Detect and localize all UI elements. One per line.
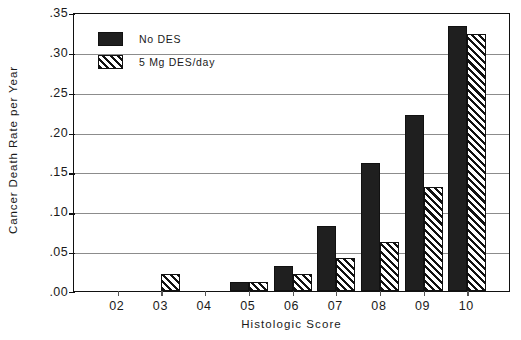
diagonal-hatch-swatch-icon xyxy=(98,55,123,69)
bar-group-08 xyxy=(359,163,401,291)
legend-label-no-des: No DES xyxy=(139,33,181,45)
bar-group-07 xyxy=(315,226,357,291)
y-tick-label: .00 xyxy=(24,285,68,299)
x-tick-label: 08 xyxy=(356,299,402,313)
y-tick-mark xyxy=(69,14,75,15)
y-axis-title-text: Cancer Death Rate per Year xyxy=(7,66,19,234)
bar-09-series-2 xyxy=(424,187,443,291)
x-tick-label: 09 xyxy=(400,299,446,313)
y-tick-mark xyxy=(69,213,75,214)
y-tick-mark xyxy=(69,253,75,254)
bar-07-series-2 xyxy=(336,258,355,291)
y-tick-mark xyxy=(69,173,75,174)
y-tick-label: .35 xyxy=(24,6,68,20)
y-tick-label: .20 xyxy=(24,126,68,140)
gridline xyxy=(74,94,509,95)
y-tick-mark xyxy=(69,94,75,95)
legend-label-des: 5 Mg DES/day xyxy=(139,56,215,68)
x-tick-mark xyxy=(249,291,250,296)
bar-06-series-2 xyxy=(293,274,312,291)
x-tick-label: 03 xyxy=(137,299,183,313)
bar-10-series-2 xyxy=(467,34,486,291)
x-tick-mark xyxy=(424,291,425,296)
y-tick-label: .05 xyxy=(24,245,68,259)
solid-black-swatch-icon xyxy=(98,32,123,46)
chart-legend: No DES 5 Mg DES/day xyxy=(98,29,258,75)
bar-group-05 xyxy=(228,282,270,291)
x-axis-title: Histologic Score xyxy=(73,318,510,330)
y-tick-mark xyxy=(69,54,75,55)
bar-05-series-2 xyxy=(249,282,268,291)
x-tick-mark xyxy=(380,291,381,296)
bar-group-09 xyxy=(403,115,445,291)
bar-03-series-2 xyxy=(161,274,180,291)
bar-08-series-1 xyxy=(361,163,380,291)
x-tick-label: 07 xyxy=(312,299,358,313)
y-axis-title: Cancer Death Rate per Year xyxy=(0,0,26,300)
x-tick-mark xyxy=(336,291,337,296)
bar-10-series-1 xyxy=(448,26,467,291)
y-axis-tick-labels: .00.05.10.15.20.25.30.35 xyxy=(24,0,68,340)
x-tick-mark xyxy=(205,291,206,296)
bar-group-06 xyxy=(272,266,314,291)
bar-09-series-1 xyxy=(405,115,424,291)
bar-group-10 xyxy=(446,26,488,291)
x-tick-mark xyxy=(467,291,468,296)
bar-06-series-1 xyxy=(274,266,293,291)
x-tick-label: 02 xyxy=(94,299,140,313)
x-tick-label: 10 xyxy=(443,299,489,313)
y-tick-mark xyxy=(69,134,75,135)
y-tick-label: .15 xyxy=(24,165,68,179)
x-tick-label: 04 xyxy=(181,299,227,313)
legend-item-des: 5 Mg DES/day xyxy=(98,52,258,71)
x-tick-label: 06 xyxy=(269,299,315,313)
x-tick-label: 05 xyxy=(225,299,271,313)
bar-07-series-1 xyxy=(317,226,336,291)
x-tick-mark xyxy=(118,291,119,296)
bar-group-03 xyxy=(140,274,182,291)
bar-05-series-1 xyxy=(230,282,249,291)
y-tick-label: .25 xyxy=(24,86,68,100)
bar-08-series-2 xyxy=(380,242,399,291)
x-tick-mark xyxy=(161,291,162,296)
bar-chart-figure: Cancer Death Rate per Year .00.05.10.15.… xyxy=(0,0,521,340)
x-tick-mark xyxy=(293,291,294,296)
legend-item-no-des: No DES xyxy=(98,29,258,48)
y-tick-label: .30 xyxy=(24,46,68,60)
y-tick-mark xyxy=(69,292,75,293)
y-tick-label: .10 xyxy=(24,205,68,219)
